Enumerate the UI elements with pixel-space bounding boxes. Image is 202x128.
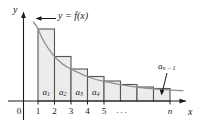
rect-label-a3: a3 [76, 88, 84, 97]
rect-label-a2: a2 [59, 88, 67, 97]
rect-label-a1-sub: 1 [47, 91, 50, 97]
rect-label-a4: a4 [92, 88, 100, 97]
last-rect-label-sub: n − 1 [163, 65, 176, 71]
x-tick-label-n: n [164, 107, 176, 116]
x-tick-label-3: 3 [65, 107, 77, 116]
riemann-rectangles [38, 29, 170, 101]
last-rect-label: an − 1 [158, 62, 176, 71]
curve-label-arrow [36, 16, 57, 20]
y-axis-label: y [13, 5, 17, 15]
x-tick-label-4: 4 [82, 107, 94, 116]
integral-test-figure: y x y = f(x) an − 1 a1 a2 a3 a4 0 1 2 3 … [0, 0, 202, 128]
x-tick-label-1: 1 [32, 107, 44, 116]
x-axis-ellipsis: ··· [112, 108, 132, 117]
curve-equation-label: y = f(x) [58, 11, 88, 21]
x-tick-label-2: 2 [49, 107, 61, 116]
x-tick-label-5: 5 [98, 107, 110, 116]
y-axis [21, 12, 26, 121]
rect-label-a4-sub: 4 [97, 91, 100, 97]
rect-label-a2-sub: 2 [64, 91, 67, 97]
rect-label-a1: a1 [43, 88, 51, 97]
x-tick-label-0: 0 [13, 107, 25, 116]
x-axis-label: x [188, 107, 192, 117]
rect-label-a3-sub: 3 [80, 91, 83, 97]
